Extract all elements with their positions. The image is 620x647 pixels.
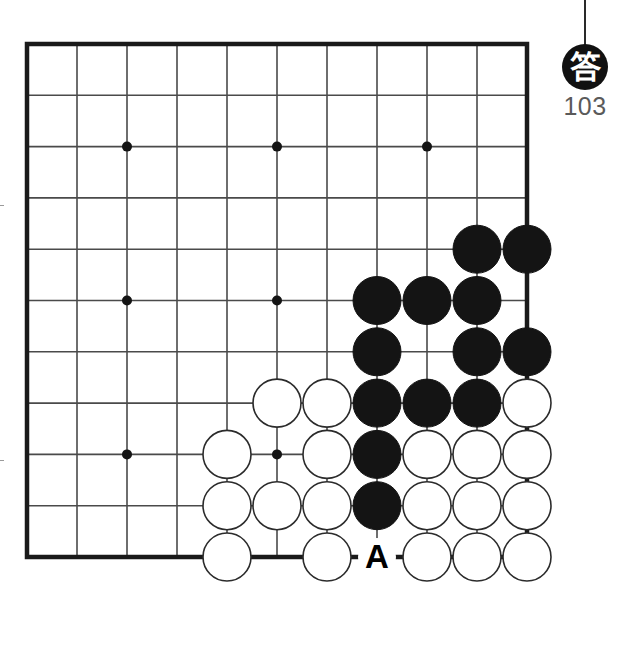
white-stone[interactable] (203, 533, 251, 581)
white-stone[interactable] (503, 482, 551, 530)
white-stone[interactable] (453, 430, 501, 478)
board-markers: A (358, 538, 396, 576)
black-stone[interactable] (353, 328, 401, 376)
white-stone[interactable] (453, 533, 501, 581)
star-point (122, 142, 132, 152)
black-stone[interactable] (503, 225, 551, 273)
star-point (272, 142, 282, 152)
black-stone[interactable] (453, 225, 501, 273)
star-point (422, 142, 432, 152)
white-stone[interactable] (503, 379, 551, 427)
white-stone[interactable] (503, 430, 551, 478)
badge-stem-line (584, 0, 586, 46)
black-stone[interactable] (503, 328, 551, 376)
problem-number: 103 (554, 92, 616, 121)
star-point (122, 296, 132, 306)
black-stone[interactable] (353, 482, 401, 530)
white-stone[interactable] (253, 379, 301, 427)
go-board-canvas[interactable]: A (0, 0, 560, 620)
white-stone[interactable] (403, 430, 451, 478)
black-stone[interactable] (403, 379, 451, 427)
white-stone[interactable] (453, 482, 501, 530)
white-stone[interactable] (403, 482, 451, 530)
star-point (272, 449, 282, 459)
go-board[interactable]: A (0, 0, 560, 620)
black-stone[interactable] (453, 328, 501, 376)
white-stone[interactable] (253, 482, 301, 530)
white-stone[interactable] (403, 533, 451, 581)
black-stone[interactable] (453, 379, 501, 427)
black-stone[interactable] (353, 430, 401, 478)
answer-label-icon: 答 (562, 44, 608, 90)
diagram-page: A 答 103 (0, 0, 620, 647)
white-stone[interactable] (303, 482, 351, 530)
black-stone[interactable] (353, 277, 401, 325)
answer-badge: 答 103 (554, 0, 616, 130)
black-stone[interactable] (353, 379, 401, 427)
white-stone[interactable] (503, 533, 551, 581)
star-point (272, 296, 282, 306)
black-stone[interactable] (453, 277, 501, 325)
white-stone[interactable] (303, 430, 351, 478)
white-stone[interactable] (303, 379, 351, 427)
white-stone[interactable] (203, 430, 251, 478)
black-stone[interactable] (403, 277, 451, 325)
star-point (122, 449, 132, 459)
white-stone[interactable] (303, 533, 351, 581)
white-stone[interactable] (203, 482, 251, 530)
marker-label-a: A (365, 538, 389, 575)
